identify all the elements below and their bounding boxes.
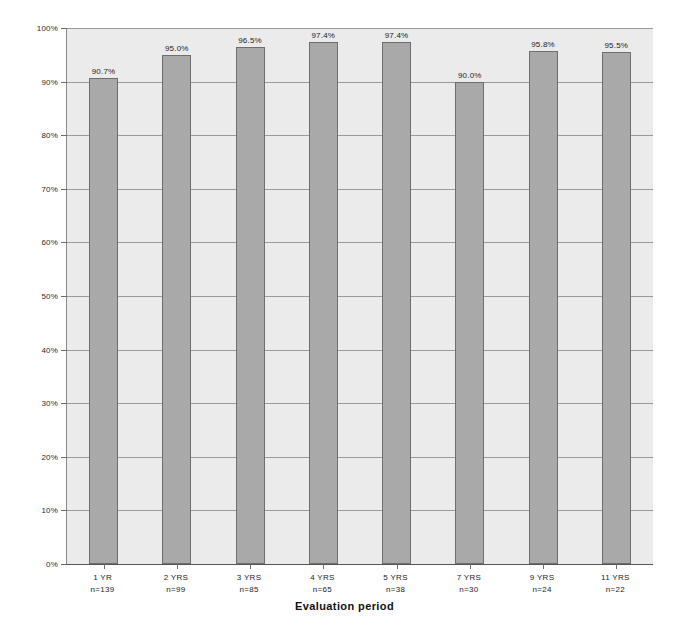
x-axis-title: Evaluation period <box>0 600 689 612</box>
bar-value-4yrs: 97.4% <box>311 31 335 40</box>
x-category-2yrs: 2 YRS n=99 <box>164 572 188 596</box>
y-axis-label-20: 20% <box>41 452 58 461</box>
x-tick-4 <box>397 564 398 569</box>
x-category-5yrs: 5 YRS n=38 <box>383 572 407 596</box>
x-category-label: 5 YRS <box>383 573 407 582</box>
bar-9yrs: 95.8% <box>529 51 558 565</box>
x-category-label: 4 YRS <box>310 573 334 582</box>
y-axis-label-0: 0% <box>46 560 58 569</box>
bar-chart: 100% 90% 80% 70% 60% 50% 40% 30% <box>0 0 689 638</box>
x-category-3yrs: 3 YRS n=85 <box>237 572 261 596</box>
gridline-20: 20% <box>67 457 653 458</box>
y-tick-90 <box>61 82 67 83</box>
bar-value-9yrs: 95.8% <box>531 40 555 49</box>
x-category-label: 9 YRS <box>530 573 554 582</box>
bar-5yrs: 97.4% <box>382 42 411 564</box>
y-tick-80 <box>61 135 67 136</box>
x-tick-1 <box>177 564 178 569</box>
bar-value-11yrs: 95.5% <box>604 41 628 50</box>
gridline-0: 0% <box>67 564 653 565</box>
bar-value-1yr: 90.7% <box>92 67 116 76</box>
gridline-30: 30% <box>67 403 653 404</box>
x-category-label: 3 YRS <box>237 573 261 582</box>
x-tick-3 <box>323 564 324 569</box>
bar-7yrs: 90.0% <box>455 82 484 564</box>
x-tick-0 <box>104 564 105 569</box>
bar-value-7yrs: 90.0% <box>458 71 482 80</box>
y-tick-40 <box>61 350 67 351</box>
x-tick-5 <box>470 564 471 569</box>
gridline-40: 40% <box>67 350 653 351</box>
gridline-100: 100% <box>67 28 653 29</box>
x-category-label: 2 YRS <box>164 573 188 582</box>
gridline-50: 50% <box>67 296 653 297</box>
y-axis-label-30: 30% <box>41 399 58 408</box>
y-axis-label-50: 50% <box>41 292 58 301</box>
x-category-n: n=65 <box>310 584 334 596</box>
y-tick-50 <box>61 296 67 297</box>
x-tick-2 <box>250 564 251 569</box>
gridline-70: 70% <box>67 189 653 190</box>
bar-4yrs: 97.4% <box>309 42 338 564</box>
y-tick-70 <box>61 189 67 190</box>
x-category-1yr: 1 YR n=139 <box>91 572 115 596</box>
x-tick-7 <box>616 564 617 569</box>
x-category-n: n=22 <box>601 584 630 596</box>
x-category-label: 11 YRS <box>601 573 630 582</box>
x-category-n: n=30 <box>457 584 481 596</box>
x-category-label: 1 YR <box>93 573 112 582</box>
y-tick-10 <box>61 510 67 511</box>
x-category-label: 7 YRS <box>457 573 481 582</box>
bar-value-2yrs: 95.0% <box>165 44 189 53</box>
y-axis-label-80: 80% <box>41 131 58 140</box>
y-axis-label-70: 70% <box>41 184 58 193</box>
plot-area: 100% 90% 80% 70% 60% 50% 40% 30% <box>66 28 653 565</box>
gridline-80: 80% <box>67 135 653 136</box>
x-category-n: n=24 <box>530 584 554 596</box>
gridline-60: 60% <box>67 242 653 243</box>
bar-2yrs: 95.0% <box>162 55 191 564</box>
x-category-n: n=38 <box>383 584 407 596</box>
x-category-9yrs: 9 YRS n=24 <box>530 572 554 596</box>
gridline-10: 10% <box>67 510 653 511</box>
y-tick-100 <box>61 28 67 29</box>
x-category-n: n=99 <box>164 584 188 596</box>
y-tick-0 <box>61 564 67 565</box>
bar-11yrs: 95.5% <box>602 52 631 564</box>
bar-value-5yrs: 97.4% <box>385 31 409 40</box>
x-category-n: n=139 <box>91 584 115 596</box>
x-category-4yrs: 4 YRS n=65 <box>310 572 334 596</box>
x-category-n: n=85 <box>237 584 261 596</box>
x-tick-6 <box>543 564 544 569</box>
y-axis-label-90: 90% <box>41 77 58 86</box>
y-axis-label-100: 100% <box>37 24 58 33</box>
x-category-7yrs: 7 YRS n=30 <box>457 572 481 596</box>
y-axis-label-40: 40% <box>41 345 58 354</box>
bar-value-3yrs: 96.5% <box>238 36 262 45</box>
y-tick-60 <box>61 242 67 243</box>
gridline-90: 90% <box>67 82 653 83</box>
bar-1yr: 90.7% <box>89 78 118 564</box>
y-axis-label-60: 60% <box>41 238 58 247</box>
y-axis-label-10: 10% <box>41 506 58 515</box>
bar-3yrs: 96.5% <box>236 47 265 564</box>
y-tick-30 <box>61 403 67 404</box>
y-tick-20 <box>61 457 67 458</box>
x-category-11yrs: 11 YRS n=22 <box>601 572 630 596</box>
